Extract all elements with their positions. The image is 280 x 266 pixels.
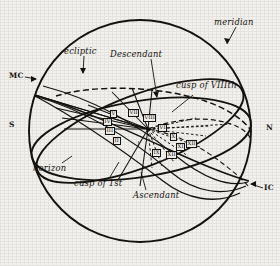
label-meridian: meridian <box>214 18 254 26</box>
house-label-X: X <box>170 133 177 141</box>
sphere-center-point <box>146 127 150 131</box>
label-s: S <box>9 121 15 128</box>
equator-dashed-arc <box>56 88 250 129</box>
house-label-V: V <box>110 110 117 118</box>
label-cusp-first: cusp of 1st <box>74 179 122 187</box>
label-descendant: Descendant <box>110 50 162 58</box>
house-label-IV: IV <box>103 118 112 126</box>
house-label-XII: XII <box>166 151 177 159</box>
leader-ascendant <box>141 172 146 190</box>
house-label-I: I <box>137 141 140 147</box>
label-ecliptic: ecliptic <box>64 47 97 55</box>
astronomical-sphere-diagram: MC IC S N meridian ecliptic horizon Desc… <box>0 0 280 266</box>
house-label-IX: IX <box>152 149 161 157</box>
arrowhead-ecliptic <box>80 68 86 74</box>
arrowhead-meridian <box>224 38 230 44</box>
label-ic: IC <box>264 184 274 191</box>
label-ascendant: Ascendant <box>133 191 179 199</box>
arrowhead-descendant <box>153 91 159 98</box>
house-label-III: III <box>105 127 115 135</box>
leader-horizon <box>62 156 72 163</box>
label-horizon: horizon <box>33 164 66 172</box>
label-mc: MC <box>9 72 24 79</box>
arrowhead-mc <box>31 76 37 82</box>
leader-cusp-first <box>110 162 119 177</box>
cusp-dashed-arc-b <box>148 129 248 186</box>
house-label-XII-b: XII <box>186 140 197 148</box>
house-label-II: II <box>113 137 121 145</box>
arrowhead-ic <box>250 181 256 187</box>
label-n: N <box>266 124 273 131</box>
house-label-VIII: VIII <box>143 114 156 122</box>
house-label-VI: VI <box>158 124 167 132</box>
label-cusp-eighth: cusp of VIIIth <box>176 81 237 89</box>
diagram-canvas <box>0 0 280 266</box>
house-label-XI: XI <box>176 143 185 151</box>
house-label-VII: VII <box>128 109 139 117</box>
